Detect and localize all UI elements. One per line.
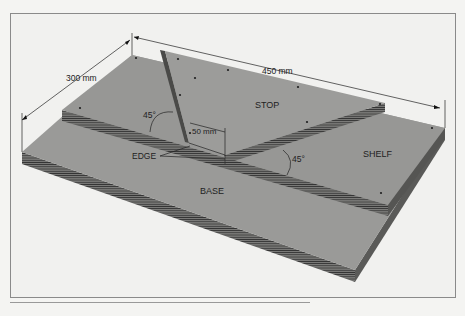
bench-hook-diagram: 300 mm 450 mm 50 mm 45° 45° STOP SHELF B… — [0, 0, 465, 316]
stop-label: STOP — [255, 100, 279, 110]
left-angle-label: 45° — [143, 110, 156, 120]
edge-label: EDGE — [132, 151, 156, 161]
base-label: BASE — [200, 186, 224, 196]
stop-offset-dimension-label: 50 mm — [192, 127, 217, 136]
right-angle-label: 45° — [292, 154, 305, 164]
shelf-label: SHELF — [363, 149, 393, 159]
width-dimension-label: 300 mm — [66, 73, 97, 83]
length-dimension-label: 450 mm — [262, 66, 293, 76]
